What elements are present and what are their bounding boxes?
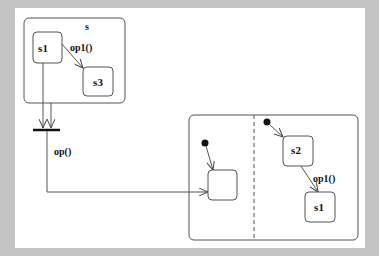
transition-s1-s3-label: op1() bbox=[70, 42, 92, 54]
state-s2[interactable]: s2 bbox=[283, 136, 313, 166]
state-s1[interactable]: s1 bbox=[33, 32, 62, 63]
composite-s-label: s bbox=[85, 21, 89, 32]
state-diagram: s s1 s3 op1() op() bbox=[0, 0, 379, 256]
state-s2-label: s2 bbox=[291, 144, 301, 156]
state-s1-label: s1 bbox=[38, 42, 48, 54]
transition-op-label: op() bbox=[54, 146, 71, 158]
state-s3[interactable]: s3 bbox=[83, 67, 113, 96]
initial-pseudostate-left bbox=[202, 140, 209, 147]
transition-s2-s1[interactable]: op1() bbox=[301, 166, 335, 192]
state-s1-right-label: s1 bbox=[314, 201, 324, 213]
transition-op[interactable]: op() bbox=[47, 131, 208, 192]
transition-s2-s1-label: op1() bbox=[313, 173, 335, 185]
state-s3-label: s3 bbox=[93, 76, 103, 88]
region-right: s2 op1() s1 bbox=[264, 119, 336, 223]
state-s1-right[interactable]: s1 bbox=[305, 192, 335, 222]
transition-s1-s3[interactable]: op1() bbox=[62, 42, 92, 68]
join-incoming-transitions[interactable] bbox=[43, 63, 51, 128]
state-unnamed[interactable] bbox=[208, 170, 237, 200]
region-left bbox=[202, 140, 238, 201]
